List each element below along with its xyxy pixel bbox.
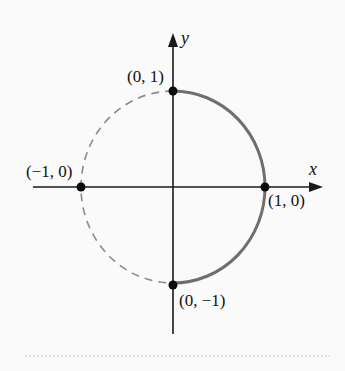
label-point-left: (−1, 0) (26, 163, 72, 180)
y-axis-label: y (181, 29, 189, 47)
unit-circle-figure: y x (0, 1) (−1, 0) (1, 0) (0, −1) (0, 0, 345, 371)
x-axis-label: x (309, 160, 317, 178)
point-top (169, 87, 178, 96)
label-point-bottom: (0, −1) (179, 292, 225, 309)
diagram-canvas (0, 0, 345, 371)
label-point-right: (1, 0) (268, 192, 305, 209)
y-axis-arrowhead-icon (168, 33, 178, 47)
point-bottom (169, 281, 178, 290)
point-left (77, 183, 86, 192)
label-point-top: (0, 1) (127, 68, 164, 85)
x-axis-arrowhead-icon (309, 182, 323, 192)
